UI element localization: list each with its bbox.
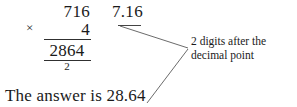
answer-sentence: The answer is 28.64 — [5, 86, 146, 106]
decimal-factor: 7.16 — [112, 2, 143, 22]
multiplication-rule-top — [44, 39, 91, 40]
leader-line-from-decimal-factor — [120, 26, 188, 48]
multiplicand: 716 — [50, 2, 90, 22]
decimal-digits-underline — [118, 25, 141, 26]
leader-line-from-answer — [147, 49, 188, 103]
annotation-text: 2 digits after the decimal point — [191, 34, 295, 62]
carry-digit: 2 — [44, 60, 90, 72]
multiplication-operator-icon: × — [26, 20, 33, 36]
annotation-line-1: 2 digits after the — [191, 34, 295, 48]
annotation-line-2: decimal point — [191, 48, 295, 62]
worked-example-figure: 716 × 4 2864 2 7.16 2 digits after the d… — [0, 0, 297, 107]
multiplier: 4 — [50, 20, 90, 40]
product: 2864 — [44, 41, 90, 61]
